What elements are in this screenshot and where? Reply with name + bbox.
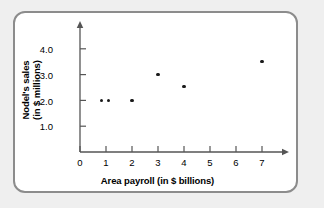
x-tick-label-1: 1 [97, 157, 115, 168]
y-axis-title-line2: (in $ millions) [31, 28, 42, 152]
x-tick-label-0: 0 [71, 157, 89, 168]
x-axis-ticks [80, 146, 262, 152]
x-axis-title: Area payroll (in $ billions) [15, 175, 300, 186]
y-axis-title-line1: Nodel's sales [20, 28, 31, 152]
data-point [182, 85, 185, 88]
x-tick-label-5: 5 [201, 157, 219, 168]
x-tick-label-7: 7 [253, 157, 271, 168]
data-point [107, 99, 110, 102]
scatter-plot: 1.0 2.0 3.0 4.0 0 1 2 3 4 5 6 7 Area pay… [15, 13, 300, 195]
x-tick-label-2: 2 [123, 157, 141, 168]
y-axis-ticks [80, 49, 86, 126]
x-tick-label-3: 3 [149, 157, 167, 168]
data-point [130, 99, 133, 102]
x-tick-label-6: 6 [227, 157, 245, 168]
y-axis-title: Nodel's sales (in $ millions) [20, 28, 42, 152]
chart-frame: 1.0 2.0 3.0 4.0 0 1 2 3 4 5 6 7 Area pay… [13, 11, 298, 193]
x-tick-label-4: 4 [175, 157, 193, 168]
data-point [156, 73, 159, 76]
